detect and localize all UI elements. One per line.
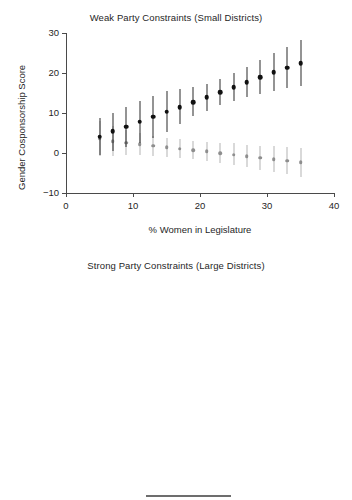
y-axis-title: Gender Cosponsorship Score bbox=[16, 65, 27, 190]
point-marker bbox=[178, 105, 183, 110]
figure-container: Weak Party Constraints (Small Districts)… bbox=[0, 0, 352, 500]
point-marker bbox=[137, 120, 142, 125]
x-axis-title: % Women in Legislature bbox=[66, 224, 334, 235]
point-marker bbox=[111, 129, 116, 134]
point-marker bbox=[271, 70, 276, 75]
point-marker bbox=[245, 80, 250, 85]
panel-weak-party-constraints: Weak Party Constraints (Small Districts)… bbox=[0, 0, 352, 250]
panel-title: Weak Party Constraints (Small Districts) bbox=[0, 12, 352, 23]
panel-title: Strong Party Constraints (Large District… bbox=[0, 260, 352, 271]
y-tick-label: 30 bbox=[48, 28, 59, 38]
y-tick-label: 0 bbox=[54, 148, 59, 158]
y-tick-label: −10 bbox=[43, 188, 59, 198]
point-marker bbox=[124, 124, 129, 129]
point-marker bbox=[285, 66, 290, 71]
series-dark-estimate bbox=[66, 33, 334, 194]
point-marker bbox=[151, 114, 156, 119]
point-marker bbox=[191, 100, 196, 105]
x-tick bbox=[334, 193, 335, 197]
y-tick-label: 10 bbox=[48, 108, 59, 118]
x-tick-label: 10 bbox=[128, 201, 139, 211]
x-tick-label: 20 bbox=[195, 201, 206, 211]
plot-area-top: −100102030 010203040 bbox=[66, 33, 334, 193]
point-marker bbox=[204, 95, 209, 100]
point-marker bbox=[258, 75, 263, 80]
point-marker bbox=[218, 90, 223, 95]
page-rule bbox=[146, 495, 231, 497]
panel-strong-party-constraints: Strong Party Constraints (Large District… bbox=[0, 250, 352, 500]
point-marker bbox=[97, 134, 102, 139]
x-tick-label: 40 bbox=[329, 201, 340, 211]
x-tick-label: 30 bbox=[262, 201, 273, 211]
point-marker bbox=[231, 85, 236, 90]
y-tick-label: 20 bbox=[48, 68, 59, 78]
point-marker bbox=[298, 61, 303, 66]
point-marker bbox=[164, 110, 169, 115]
x-tick-label: 0 bbox=[63, 201, 68, 211]
